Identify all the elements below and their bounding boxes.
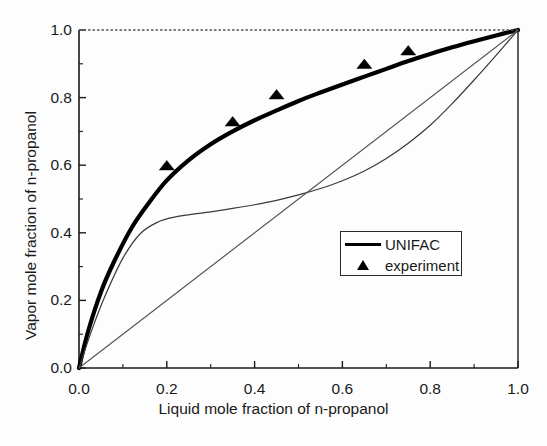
legend-box: UNIFAC experiment [340, 231, 462, 276]
x-axis-label: Liquid mole fraction of n-propanol [0, 400, 547, 418]
x-tick-label: 0.6 [332, 380, 354, 398]
x-tick-label: 1.0 [507, 380, 529, 398]
y-tick-label: 0.2 [20, 291, 72, 309]
data-point-marker [269, 89, 284, 99]
y-tick-label: 1.0 [20, 21, 72, 39]
x-tick-label: 0.2 [156, 380, 178, 398]
y-tick-label: 0.0 [20, 359, 72, 377]
x-tick-label: 0.4 [244, 380, 266, 398]
data-point-marker [159, 160, 174, 170]
legend-label-unifac: UNIFAC [385, 236, 440, 253]
x-tick-label: 0.8 [419, 380, 441, 398]
vle-chart-figure: Vapor mole fraction of n-propanol Liquid… [0, 0, 547, 446]
y-tick-label: 0.4 [20, 224, 72, 242]
data-point-marker [357, 59, 372, 69]
triangle-marker-icon [341, 260, 385, 270]
legend-entry-unifac: UNIFAC [341, 233, 463, 255]
data-point-marker [225, 117, 240, 127]
legend-line-icon [341, 243, 385, 246]
legend-label-experiment: experiment [385, 257, 459, 274]
data-point-marker [401, 46, 416, 56]
y-tick-label: 0.8 [20, 89, 72, 107]
legend-entry-experiment: experiment [341, 254, 463, 276]
x-tick-label: 0.0 [68, 380, 90, 398]
y-tick-label: 0.6 [20, 156, 72, 174]
series-diagonal-reference-line [79, 30, 518, 368]
